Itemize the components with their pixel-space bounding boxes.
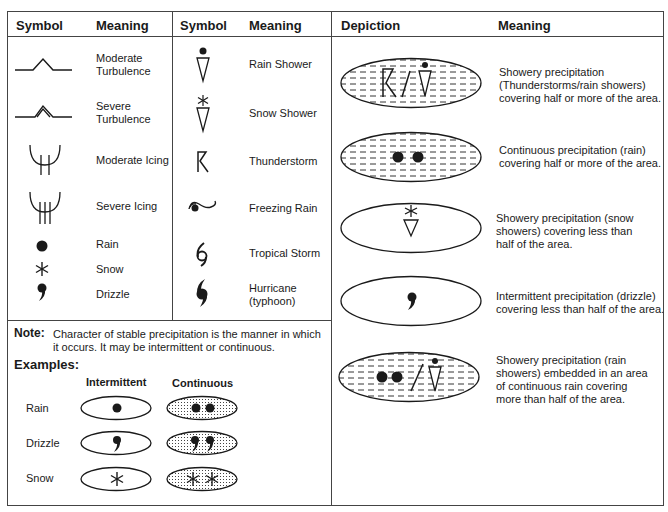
header-meaning-right: Meaning — [498, 18, 551, 33]
meaning-hurricane: Hurricane (typhoon) — [249, 282, 297, 308]
continuous-rain-shaded-area — [339, 131, 483, 183]
meaning-thunderstorm: Thunderstorm — [249, 155, 317, 168]
note-text-line1: Character of stable precipitation is the… — [53, 328, 321, 341]
example-rain-intermittent — [79, 395, 153, 421]
example-drizzle-intermittent — [79, 430, 153, 456]
meaning-rain: Rain — [96, 238, 119, 251]
depiction-meaning-1: Showery precipitation (Thunderstorms/rai… — [499, 66, 661, 105]
rain-shower-embedded-shaded-area — [337, 351, 481, 403]
meaning-moderate-icing: Moderate Icing — [96, 154, 169, 167]
example-snow-intermittent — [79, 466, 153, 492]
drizzle-icon — [35, 283, 49, 303]
rain-icon — [35, 239, 49, 253]
thunderstorm-rain-shower-shaded-area — [339, 57, 483, 109]
freezing-rain-icon — [187, 199, 219, 215]
rain-shower-icon — [195, 47, 211, 83]
example-drizzle-continuous — [165, 430, 239, 456]
example-snow-continuous — [165, 466, 239, 492]
snow-shower-unshaded-area — [339, 202, 483, 254]
meaning-snow: Snow — [96, 263, 124, 276]
header-symbol-1: Symbol — [16, 18, 63, 33]
hurricane-icon — [194, 278, 210, 308]
examples-title: Examples: — [14, 357, 79, 372]
right-header-divider — [331, 36, 664, 37]
example-rain-continuous — [165, 395, 239, 421]
example-label-snow: Snow — [26, 472, 54, 485]
tropical-storm-icon — [194, 241, 210, 267]
depiction-meaning-5: Showery precipitation (rain showers) emb… — [496, 354, 648, 406]
depiction-meaning-2: Continuous precipitation (rain) covering… — [499, 144, 661, 170]
example-label-drizzle: Drizzle — [26, 437, 60, 450]
examples-col-intermittent: Intermittent — [86, 376, 147, 388]
note-label: Note: — [14, 327, 45, 340]
moderate-icing-icon — [27, 143, 63, 177]
drizzle-unshaded-area — [339, 275, 483, 327]
snow-icon — [35, 262, 49, 276]
severe-icing-icon — [27, 190, 63, 226]
header-symbol-2: Symbol — [180, 18, 227, 33]
snow-shower-icon — [195, 95, 211, 133]
meaning-snow-shower: Snow Shower — [249, 107, 317, 120]
note-divider — [7, 320, 332, 321]
header-depiction: Depiction — [341, 18, 400, 33]
meaning-rain-shower: Rain Shower — [249, 58, 312, 71]
meaning-freezing-rain: Freezing Rain — [249, 202, 317, 215]
examples-col-continuous: Continuous — [172, 377, 233, 389]
meaning-moderate-turbulence: Moderate Turbulence — [96, 52, 151, 78]
meaning-drizzle: Drizzle — [96, 288, 130, 301]
thunderstorm-icon — [196, 150, 210, 174]
meaning-severe-icing: Severe Icing — [96, 200, 157, 213]
left-column-divider — [172, 11, 173, 321]
depiction-meaning-4: Intermittent precipitation (drizzle) cov… — [496, 290, 664, 316]
meaning-tropical-storm: Tropical Storm — [249, 247, 320, 260]
depiction-meaning-3: Showery precipitation (snow showers) cov… — [496, 212, 634, 251]
example-label-rain: Rain — [26, 402, 49, 415]
meaning-severe-turbulence: Severe Turbulence — [96, 100, 151, 126]
note-text-line2: it occurs. It may be intermittent or con… — [53, 341, 275, 354]
left-header-divider — [7, 36, 332, 37]
severe-turbulence-icon — [15, 101, 75, 121]
header-meaning-2: Meaning — [249, 18, 302, 33]
moderate-turbulence-icon — [15, 55, 75, 75]
header-meaning-1: Meaning — [96, 18, 149, 33]
